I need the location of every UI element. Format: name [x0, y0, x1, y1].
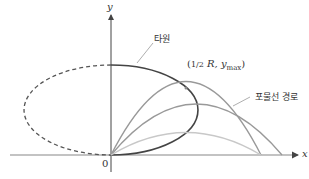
- fraction: 1/2: [191, 60, 204, 69]
- ellipse-label: 타원: [154, 32, 170, 45]
- parabola-leader: [233, 97, 250, 106]
- ellipse-leader: [137, 43, 153, 63]
- ellipse-solid-half: [111, 65, 198, 155]
- origin-label: 0: [102, 158, 108, 169]
- parabola-low: [111, 133, 261, 156]
- diagram: y x 0 타원 포물선 경로 (1/2 R, ymax): [0, 0, 309, 179]
- x-axis-label: x: [302, 148, 308, 159]
- max-subscript: max: [227, 64, 242, 72]
- y-axis-label: y: [107, 1, 113, 12]
- max-point: [185, 87, 188, 90]
- range-symbol: R,: [207, 58, 218, 69]
- ellipse-dashed-half: [24, 65, 111, 155]
- parabola-label: 포물선 경로: [255, 90, 298, 103]
- max-point-label: (1/2 R, ymax): [187, 58, 245, 72]
